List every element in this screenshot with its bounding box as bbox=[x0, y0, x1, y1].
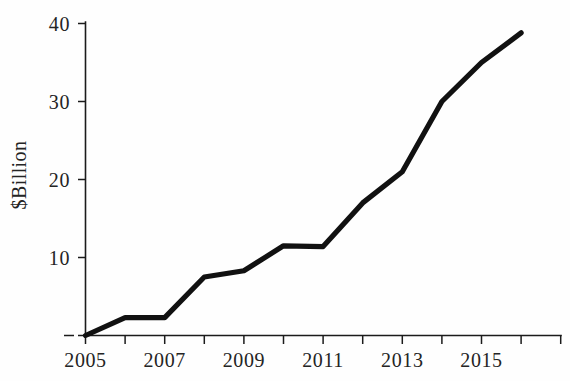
x-tick-label-2005: 2005 bbox=[64, 349, 106, 371]
data-series-line bbox=[86, 33, 522, 336]
y-axis-title: $Billion bbox=[8, 141, 30, 210]
chart-canvas: 40 30 20 10 2005 2007 2009 2011 2013 201… bbox=[0, 0, 570, 381]
y-tick-label-40: 40 bbox=[49, 13, 70, 35]
y-tick-labels: 40 30 20 10 bbox=[49, 13, 70, 269]
y-tick-label-10: 10 bbox=[49, 247, 70, 269]
x-tick-label-2009: 2009 bbox=[223, 349, 265, 371]
x-tick-label-2013: 2013 bbox=[381, 349, 423, 371]
line-chart: 40 30 20 10 2005 2007 2009 2011 2013 201… bbox=[0, 0, 570, 381]
x-tick-label-2011: 2011 bbox=[302, 349, 344, 371]
x-axis-ticks bbox=[86, 336, 561, 345]
x-tick-label-2007: 2007 bbox=[143, 349, 185, 371]
y-tick-label-30: 30 bbox=[49, 91, 70, 113]
x-tick-labels: 2005 2007 2009 2011 2013 2015 bbox=[64, 349, 502, 371]
y-tick-label-20: 20 bbox=[49, 169, 70, 191]
x-tick-label-2015: 2015 bbox=[460, 349, 502, 371]
